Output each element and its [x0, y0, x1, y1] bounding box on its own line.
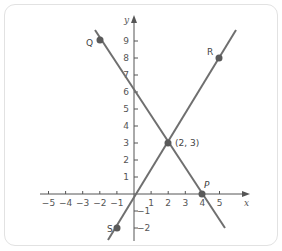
- y-tick-label: 4: [123, 121, 129, 131]
- y-ticks: −2−1123456789: [123, 36, 150, 233]
- x-tick-label: 5: [217, 198, 223, 208]
- point-s: [114, 225, 121, 232]
- y-tick-label: 8: [123, 53, 129, 63]
- y-tick-label: 3: [123, 138, 129, 148]
- y-tick-label: 2: [123, 155, 129, 165]
- point-r: [216, 55, 223, 62]
- x-tick-label: −2: [93, 198, 106, 208]
- x-axis-arrow-icon: [242, 191, 250, 197]
- point-p: [199, 191, 206, 198]
- x-axis-label: x: [244, 198, 249, 208]
- x-tick-label: 4: [200, 198, 206, 208]
- x-tick-label: 2: [165, 198, 171, 208]
- y-axis-label: y: [123, 15, 130, 25]
- x-tick-label: −1: [110, 198, 123, 208]
- y-tick-label: 6: [123, 87, 129, 97]
- label-s: S: [107, 224, 113, 234]
- intersection-point: [165, 140, 172, 147]
- x-tick-label: 3: [182, 198, 188, 208]
- y-tick-label: −1: [137, 206, 150, 216]
- label-q: Q: [86, 38, 93, 48]
- coordinate-plane: −5−4−3−2−112345 −2−1123456789 x y Q R P …: [0, 0, 282, 251]
- label-intersection: (2, 3): [175, 138, 199, 148]
- y-axis-arrow-icon: [131, 15, 137, 23]
- label-p: P: [204, 180, 210, 190]
- x-tick-label: −3: [76, 198, 89, 208]
- y-tick-label: −2: [137, 223, 150, 233]
- y-tick-label: 1: [123, 172, 129, 182]
- point-q: [97, 37, 104, 44]
- label-r: R: [207, 47, 213, 57]
- x-axis: [40, 191, 250, 197]
- y-tick-label: 5: [123, 104, 129, 114]
- y-tick-label: 9: [123, 36, 129, 46]
- x-tick-label: −4: [59, 198, 73, 208]
- x-tick-label: −5: [42, 198, 55, 208]
